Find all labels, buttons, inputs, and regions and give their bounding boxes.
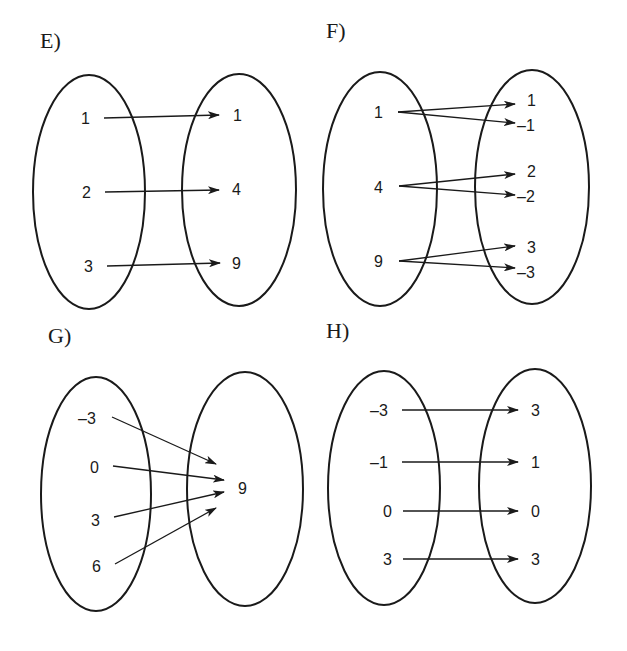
range-value: 1: [527, 92, 536, 109]
domain-value: 3: [84, 258, 93, 275]
mapping-diagram-e: [33, 74, 296, 309]
mapping-diagrams: 1 2 3 1 4 9 1 4 9 1 –1 2 –2 3 –3: [0, 0, 627, 651]
mapping-diagram-g: [41, 372, 303, 611]
range-value: 2: [527, 163, 536, 180]
mapping-arrow: [399, 174, 515, 186]
domain-value: 9: [374, 253, 383, 270]
range-value: 3: [531, 551, 540, 568]
mapping-arrow: [398, 104, 515, 112]
mapping-arrow: [399, 261, 515, 268]
mapping-diagram-f: [323, 70, 589, 306]
domain-value: 0: [90, 459, 99, 476]
range-value: 9: [232, 255, 241, 272]
range-value: 1: [233, 107, 242, 124]
mapping-arrow: [399, 186, 515, 195]
domain-value: 3: [383, 551, 392, 568]
range-value: 3: [527, 239, 536, 256]
domain-value: 0: [383, 503, 392, 520]
range-value: –2: [517, 188, 535, 205]
mapping-arrow: [107, 263, 220, 266]
range-value: 1: [531, 454, 540, 471]
domain-value: 2: [82, 184, 91, 201]
range-value: 9: [238, 480, 247, 497]
range-value: –1: [517, 117, 535, 134]
mapping-arrow: [399, 246, 515, 261]
range-value: 3: [531, 402, 540, 419]
domain-value: –3: [78, 410, 96, 427]
panel-h-values: –3 –1 0 3 3 1 0 3: [370, 402, 540, 568]
mapping-arrow: [115, 508, 216, 564]
domain-value: 1: [81, 110, 90, 127]
domain-ellipse: [41, 377, 151, 611]
domain-value: 6: [92, 558, 101, 575]
panel-f-values: 1 4 9 1 –1 2 –2 3 –3: [374, 92, 536, 281]
domain-value: –1: [370, 454, 388, 471]
mapping-arrow: [105, 190, 219, 192]
domain-value: 3: [91, 512, 100, 529]
range-value: –3: [517, 264, 535, 281]
domain-value: –3: [370, 402, 388, 419]
range-value: 0: [531, 503, 540, 520]
domain-value: 4: [374, 179, 383, 196]
mapping-arrow: [112, 417, 216, 464]
range-value: 4: [232, 181, 241, 198]
mapping-arrow: [398, 112, 515, 123]
mapping-diagram-h: [328, 369, 591, 605]
mapping-arrow: [113, 466, 224, 480]
mapping-arrow: [104, 115, 219, 118]
domain-value: 1: [374, 104, 383, 121]
